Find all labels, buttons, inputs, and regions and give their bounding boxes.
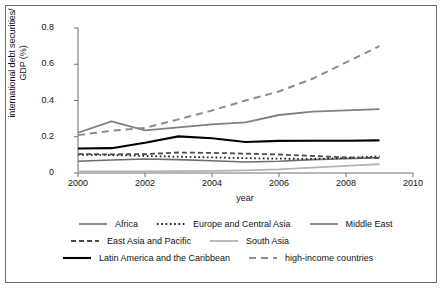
legend-item-latin-america-and-the-caribbean[interactable]: Latin America and the Caribbean (62, 253, 248, 263)
x-axis-tick-labels: 200020022004200620082010 (0, 178, 443, 192)
x-axis-tick-label: 2008 (326, 178, 366, 188)
y-axis-tick-label: 0 (28, 167, 54, 177)
y-axis-tick-label: 0.2 (28, 131, 54, 141)
legend-label: South Asia (246, 236, 289, 246)
series-line-south-asia (78, 164, 380, 171)
legend-swatch-icon (209, 236, 239, 246)
legend-item-east-asia-and-pacific[interactable]: East Asia and Pacific (70, 236, 209, 246)
legend-row: Latin America and the Caribbeanhigh-inco… (62, 249, 422, 266)
legend-item-high-income-countries[interactable]: high-income countries (248, 253, 391, 263)
y-axis-label: international debt securities/ GDP (%) (7, 0, 29, 143)
legend-label: Middle East (346, 219, 393, 229)
legend-item-middle-east[interactable]: Middle East (309, 219, 411, 229)
series-line-latin-america-and-the-caribbean (78, 136, 380, 148)
legend-swatch-icon (78, 219, 108, 229)
legend-label: East Asia and Pacific (107, 236, 191, 246)
x-axis-tick-label: 2004 (192, 178, 232, 188)
x-axis-tick-label: 2002 (125, 178, 165, 188)
legend-label: Europe and Central Asia (193, 219, 291, 229)
x-axis-tick-label: 2000 (58, 178, 98, 188)
legend-row: East Asia and PacificSouth Asia (62, 232, 422, 249)
legend-row: AfricaEurope and Central AsiaMiddle East (62, 215, 422, 232)
legend-label: Africa (115, 219, 138, 229)
series-line-high-income-countries (78, 46, 380, 135)
legend-swatch-icon (70, 236, 100, 246)
legend-swatch-icon (248, 253, 278, 263)
legend-item-africa[interactable]: Africa (78, 219, 156, 229)
legend-item-south-asia[interactable]: South Asia (209, 236, 307, 246)
chart-figure: international debt securities/ GDP (%) 0… (0, 0, 443, 289)
legend-swatch-icon (309, 219, 339, 229)
y-axis-tick-labels: 00.20.40.60.8 (28, 0, 54, 289)
y-axis-tick-label: 0.4 (28, 95, 54, 105)
chart-legend: AfricaEurope and Central AsiaMiddle East… (62, 215, 422, 266)
y-axis-label-line1: international debt securities/ (7, 0, 18, 143)
legend-item-europe-and-central-asia[interactable]: Europe and Central Asia (156, 219, 309, 229)
x-axis-tick-label: 2006 (259, 178, 299, 188)
legend-label: high-income countries (285, 253, 373, 263)
x-axis-tick-label: 2010 (393, 178, 433, 188)
y-axis-tick-label: 0.8 (28, 22, 54, 32)
legend-swatch-icon (62, 253, 92, 263)
legend-label: Latin America and the Caribbean (99, 253, 230, 263)
legend-swatch-icon (156, 219, 186, 229)
x-axis-label: year (77, 193, 413, 203)
y-axis-tick-label: 0.6 (28, 58, 54, 68)
series-line-middle-east (78, 109, 380, 133)
